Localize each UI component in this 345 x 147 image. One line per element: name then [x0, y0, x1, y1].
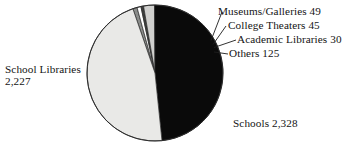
slice-label-museums-galleries: Museums/Galleries 49: [218, 5, 321, 17]
slice-label-school-libraries-name: School Libraries: [5, 63, 81, 75]
pie-slices: [87, 5, 223, 141]
pie-chart-figure: can be as m. For exam ssumed ection flow…: [0, 0, 345, 147]
slice-label-school-libraries: School Libraries 2,227: [5, 63, 81, 88]
slice-label-schools: Schools 2,328: [233, 117, 298, 129]
leader-line-college-theaters: [213, 26, 226, 45]
slice-label-academic-libraries: Academic Libraries 30: [237, 33, 342, 45]
slice-label-school-libraries-value: 2,227: [5, 75, 81, 87]
pie-slice-schools: [155, 5, 223, 141]
slice-label-others: Others 125: [229, 47, 279, 59]
slice-label-college-theaters: College Theaters 45: [228, 19, 320, 31]
